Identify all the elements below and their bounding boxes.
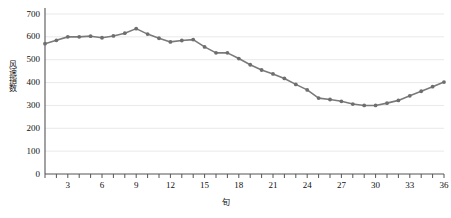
- data-point: [203, 45, 207, 49]
- data-point: [112, 34, 116, 38]
- data-point: [374, 104, 378, 108]
- data-point: [43, 42, 47, 46]
- data-point: [328, 98, 332, 102]
- data-point: [134, 27, 138, 31]
- data-point: [385, 101, 389, 105]
- data-point: [271, 72, 275, 76]
- data-point: [123, 31, 127, 35]
- wind-speed-index-chart: 风速指数 旬 0100200300400500600700 3691215182…: [0, 0, 451, 218]
- data-point: [66, 35, 70, 39]
- data-point: [431, 85, 435, 89]
- data-point: [351, 102, 355, 106]
- data-point: [226, 51, 230, 55]
- data-point: [260, 68, 264, 72]
- data-point: [442, 80, 446, 84]
- data-point: [237, 57, 241, 61]
- data-point: [248, 63, 252, 67]
- gridlines: [45, 14, 444, 151]
- data-point: [397, 99, 401, 103]
- data-point: [305, 88, 309, 92]
- data-point: [283, 77, 287, 81]
- data-point: [214, 51, 218, 55]
- data-point: [169, 40, 173, 44]
- data-point: [157, 36, 161, 40]
- data-point: [55, 38, 59, 42]
- data-point: [419, 89, 423, 93]
- axis-lines: [45, 8, 444, 174]
- data-point: [317, 96, 321, 100]
- data-point: [340, 99, 344, 103]
- data-point: [362, 104, 366, 108]
- plot-area: [0, 0, 451, 218]
- data-point: [294, 83, 298, 87]
- data-point: [77, 35, 81, 39]
- data-point: [146, 32, 150, 36]
- data-point: [89, 34, 93, 38]
- data-line-wind-speed-index: [45, 29, 444, 106]
- data-point: [408, 94, 412, 98]
- data-point: [100, 36, 104, 40]
- axis-ticks: [45, 174, 444, 178]
- data-point: [180, 39, 184, 43]
- data-point: [191, 38, 195, 42]
- data-point-markers: [43, 27, 446, 108]
